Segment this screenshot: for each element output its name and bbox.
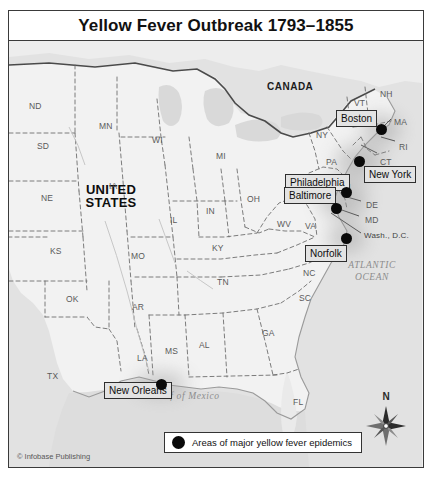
state-label-ar: AR — [132, 302, 144, 312]
epidemic-dot-boston — [376, 124, 387, 135]
compass-rose: N — [363, 391, 409, 449]
legend-label: Areas of major yellow fever epidemics — [192, 437, 352, 448]
state-label-tx: TX — [47, 371, 58, 381]
state-label-ne: NE — [41, 193, 53, 203]
epidemic-dot-new-orleans — [156, 379, 167, 390]
city-callout-boston: Boston — [336, 110, 377, 127]
country-label-canada: CANADA — [267, 81, 313, 92]
state-label-ks: KS — [50, 246, 62, 256]
state-label-ms: MS — [165, 346, 178, 356]
city-callout-new-york: New York — [364, 166, 416, 183]
state-label-oh: OH — [247, 194, 260, 204]
state-label-tn: TN — [217, 277, 229, 287]
state-label-ia: IA — [109, 181, 117, 191]
united-states-line2: STATES — [69, 196, 153, 209]
state-label-mn: MN — [99, 121, 113, 131]
state-label-md: MD — [365, 215, 379, 225]
state-label-nd: ND — [29, 101, 42, 111]
state-label-va: VA — [305, 221, 316, 231]
state-label-vt: VT — [354, 98, 365, 108]
atlantic-ocean-line2: OCEAN — [339, 271, 405, 283]
state-label-ri: RI — [399, 142, 408, 152]
atlantic-ocean-line1: ATLANTIC — [339, 259, 405, 271]
state-label-fl: FL — [293, 397, 303, 407]
epidemic-dot-norfolk — [341, 233, 352, 244]
state-label-il: IL — [170, 215, 178, 225]
state-label-pa: PA — [326, 157, 337, 167]
map-figure: Yellow Fever Outbreak 1793–1855 — [0, 0, 434, 478]
state-label-wv: WV — [277, 219, 291, 229]
copyright-notice: © Infobase Publishing — [17, 452, 90, 461]
state-label-ga: GA — [262, 328, 275, 338]
epidemic-dot-new-york — [354, 156, 365, 167]
epidemic-dot-baltimore — [331, 203, 342, 214]
compass-rose-icon — [363, 404, 409, 448]
epidemic-dot-philadelphia — [341, 187, 352, 198]
state-label-mi: MI — [216, 151, 226, 161]
place-label-washington-dc: Wash., D.C. — [364, 231, 409, 240]
state-label-wi: WI — [152, 135, 163, 145]
page-title: Yellow Fever Outbreak 1793–1855 — [78, 16, 353, 36]
map-canvas: CANADA UNITED STATES ATLANTIC OCEAN Gulf… — [9, 41, 423, 467]
city-callout-baltimore: Baltimore — [284, 187, 336, 204]
state-label-ma: MA — [394, 117, 407, 127]
state-label-ny: NY — [316, 130, 328, 140]
map-legend: Areas of major yellow fever epidemics — [164, 432, 362, 453]
legend-black-circle-icon — [172, 436, 185, 449]
state-label-sd: SD — [37, 141, 49, 151]
state-label-ky: KY — [212, 243, 224, 253]
state-label-mo: MO — [131, 251, 145, 261]
water-label-atlantic-ocean: ATLANTIC OCEAN — [339, 259, 405, 283]
state-label-nh: NH — [380, 89, 393, 99]
state-label-sc: SC — [299, 293, 311, 303]
city-callout-norfolk: Norfolk — [305, 245, 347, 262]
figure-frame: Yellow Fever Outbreak 1793–1855 — [8, 10, 424, 468]
state-label-nc: NC — [303, 268, 316, 278]
compass-north-label: N — [363, 391, 409, 402]
state-label-ok: OK — [66, 294, 79, 304]
state-label-de: DE — [366, 200, 378, 210]
figure-title-bar: Yellow Fever Outbreak 1793–1855 — [9, 11, 423, 41]
state-label-in: IN — [206, 206, 215, 216]
state-label-la: LA — [137, 353, 148, 363]
state-label-al: AL — [199, 340, 210, 350]
